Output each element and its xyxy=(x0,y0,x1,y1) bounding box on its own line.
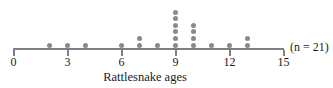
data-dot xyxy=(209,43,214,48)
data-dot xyxy=(173,43,178,48)
data-dot xyxy=(245,36,250,41)
plot-area: 03691215 Rattlesnake ages (n = 21) xyxy=(0,0,333,88)
data-dot xyxy=(173,36,178,41)
x-axis-title: Rattlesnake ages xyxy=(0,70,290,85)
data-dot xyxy=(173,10,178,15)
x-tick-label: 15 xyxy=(272,55,296,69)
data-dot xyxy=(155,43,160,48)
data-dot xyxy=(47,43,52,48)
dotplot-figure: 03691215 Rattlesnake ages (n = 21) xyxy=(0,0,333,88)
data-dot xyxy=(173,16,178,21)
data-dot xyxy=(65,43,70,48)
x-tick-label: 0 xyxy=(2,55,26,69)
x-tick-label: 6 xyxy=(110,55,134,69)
data-dot xyxy=(173,23,178,28)
data-dot xyxy=(173,29,178,34)
x-tick-label: 3 xyxy=(56,55,80,69)
x-axis-line xyxy=(13,48,284,50)
data-dot xyxy=(83,43,88,48)
data-dot xyxy=(191,23,196,28)
sample-size-annotation: (n = 21) xyxy=(290,40,329,55)
data-dot xyxy=(191,29,196,34)
data-dot xyxy=(137,43,142,48)
data-dot xyxy=(137,36,142,41)
data-dot xyxy=(119,43,124,48)
x-tick-label: 12 xyxy=(218,55,242,69)
data-dot xyxy=(245,43,250,48)
data-dot xyxy=(191,36,196,41)
data-dot xyxy=(191,43,196,48)
x-tick-label: 9 xyxy=(164,55,188,69)
data-dot xyxy=(227,43,232,48)
